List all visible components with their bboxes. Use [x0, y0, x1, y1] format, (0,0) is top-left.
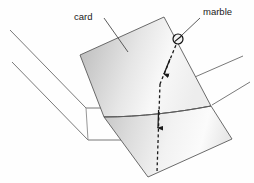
card-label: card	[74, 11, 92, 22]
table-right-edge-lower	[212, 82, 250, 105]
card-upper-face	[80, 17, 211, 117]
physics-diagram: card marble	[0, 0, 254, 183]
marble-label: marble	[203, 6, 232, 17]
card-sheet	[80, 17, 232, 177]
marble-path-arrow-lower	[158, 110, 159, 128]
table-right-edge-upper	[188, 56, 243, 80]
table-far-edge	[10, 30, 86, 108]
marble-leader-line	[182, 18, 200, 35]
figure-root: card marble	[0, 0, 254, 183]
table-corner-thickness	[86, 108, 88, 140]
marble	[173, 34, 183, 44]
table-near-edge	[12, 62, 88, 140]
